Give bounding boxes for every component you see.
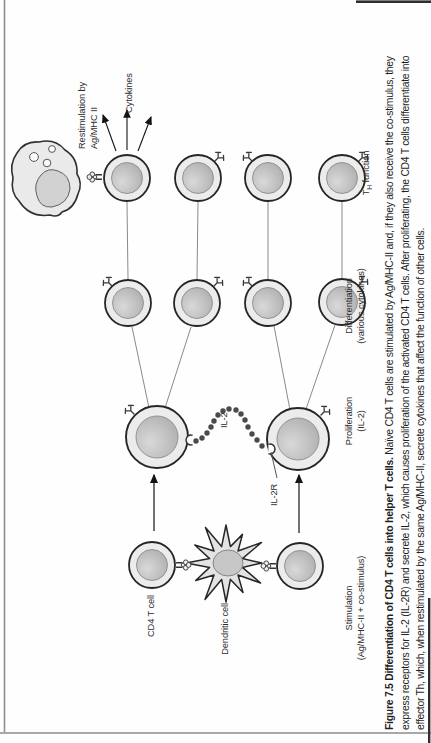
mhc-tcr-synapse-icon bbox=[176, 560, 191, 570]
effector-th-cell-4 bbox=[319, 155, 365, 201]
cytokines-label: Cytokines bbox=[124, 73, 136, 113]
figure-landscape: CD4 T cell Dendritic cell IL-2 IL-2R Res… bbox=[0, 0, 431, 743]
il2r-label: IL-2R bbox=[269, 484, 281, 506]
dendritic-cell-label: Dendritic cell bbox=[220, 603, 232, 699]
dendritic-cell bbox=[186, 525, 262, 602]
caption-line-3: effector Th, which, when restimulated by… bbox=[413, 0, 429, 730]
mhc-tcr-synapse-icon bbox=[87, 172, 102, 182]
caption-line-1-rest: Naïve CD4 T cells are stimulated by Ag/M… bbox=[384, 56, 395, 457]
il2-receptor-icon bbox=[268, 444, 275, 454]
stage-differentiation-name: Differentiation bbox=[344, 235, 356, 377]
th-function-prefix: T bbox=[361, 190, 371, 196]
caption-line-1: Figure 7.5 Differentiation of CD4 T cell… bbox=[382, 0, 398, 730]
stage-differentiation-detail: (various cytokines) bbox=[356, 235, 368, 377]
naive-cd4-t-cell-2 bbox=[277, 543, 323, 589]
cytokine-arrows bbox=[103, 110, 151, 151]
restimulation-label-line2: Ag/MHC II bbox=[89, 82, 101, 149]
effector-th-cell-1 bbox=[104, 155, 150, 201]
effector-th-cell-2 bbox=[175, 155, 221, 201]
differentiation-fan-lines bbox=[132, 325, 335, 410]
mhc-tcr-synapse-icon bbox=[261, 561, 276, 571]
activated-cd4-blast-2 bbox=[267, 408, 329, 470]
scanned-book-page: CD4 T cell Dendritic cell IL-2 IL-2R Res… bbox=[0, 0, 431, 743]
antigen-presenting-cell bbox=[12, 141, 81, 216]
restimulation-label-line1: Restimulation by bbox=[77, 82, 89, 149]
figure-caption: Figure 7.5 Differentiation of CD4 T cell… bbox=[382, 0, 429, 730]
differentiating-cell-3 bbox=[245, 280, 291, 326]
stage-stimulation-name: Stimulation bbox=[344, 528, 356, 688]
differentiating-cell-2 bbox=[174, 280, 220, 326]
th-function-suffix: function bbox=[361, 151, 371, 185]
th-function-subscript: H bbox=[366, 185, 373, 190]
restimulation-label: Restimulation by Ag/MHC II bbox=[77, 82, 100, 149]
naive-cd4-t-cell-1 bbox=[129, 542, 175, 588]
dendritic-cell-nucleus bbox=[213, 550, 243, 576]
cd4-t-cell-label: CD4 T cell bbox=[146, 595, 158, 689]
il2-receptor-icon bbox=[186, 435, 193, 445]
th-function-label: TH function bbox=[361, 117, 375, 229]
il2-label: IL-2 bbox=[219, 412, 231, 428]
activated-cd4-blast-1 bbox=[126, 406, 188, 468]
differentiating-cell-1 bbox=[105, 280, 151, 326]
stage-stimulation-detail: (Ag/MHC-II + co-stimulus) bbox=[356, 528, 368, 688]
effector-th-cell-3 bbox=[245, 155, 291, 201]
effector-connector-lines bbox=[127, 202, 342, 279]
caption-line-2: express receptors for IL-2 (IL-2R) and s… bbox=[398, 0, 414, 730]
caption-bold-title: Figure 7.5 Differentiation of CD4 T cell… bbox=[384, 457, 395, 730]
stage-differentiation-label: Differentiation (various cytokines) bbox=[344, 235, 367, 377]
stage-stimulation-label: Stimulation (Ag/MHC-II + co-stimulus) bbox=[344, 528, 367, 688]
